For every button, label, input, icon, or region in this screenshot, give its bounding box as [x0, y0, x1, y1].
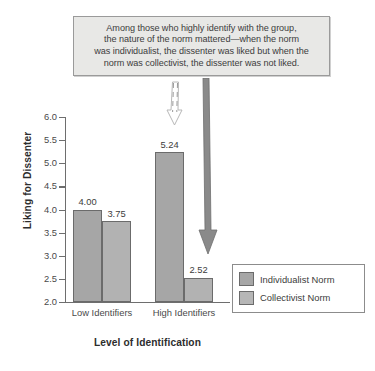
legend-label-collectivist: Collectivist Norm: [260, 292, 330, 303]
y-tick-4.0: [59, 210, 65, 211]
y-tick-6.0: [59, 117, 65, 118]
y-tick-5.0: [59, 163, 65, 164]
x-group-label-low: Low Identifiers: [57, 307, 147, 318]
plot-area: 6.0 5.5 5.0 4.5 4.0 3.5 3.0 2.5 2.0 4.00…: [0, 0, 375, 371]
y-tick-2.0: [59, 302, 65, 303]
chart-figure: Among those who highly identify with the…: [0, 0, 375, 371]
bar-label-high-collectivist: 2.52: [184, 264, 213, 275]
dashed-arrow-icon: [160, 80, 188, 134]
y-tick-5.5: [59, 140, 65, 141]
bar-high-individualist[interactable]: [155, 152, 184, 302]
legend: Individualist Norm Collectivist Norm: [232, 264, 365, 313]
x-axis-line: [65, 302, 230, 303]
legend-label-individualist: Individualist Norm: [260, 274, 335, 285]
y-axis-title: Liking for Dissenter: [22, 116, 33, 246]
legend-swatch-individualist: [239, 272, 254, 286]
bar-low-individualist[interactable]: [73, 210, 102, 303]
x-group-label-high: High Identifiers: [139, 307, 229, 318]
y-tick-3.0: [59, 256, 65, 257]
y-axis-line: [65, 117, 66, 303]
y-tick-label-2.0: 2.0: [27, 296, 57, 307]
y-tick-label-2.5: 2.5: [27, 273, 57, 284]
legend-swatch-collectivist: [239, 291, 254, 305]
y-tick-3.5: [59, 233, 65, 234]
bar-high-collectivist[interactable]: [184, 278, 213, 302]
bar-label-high-individualist: 5.24: [155, 139, 184, 150]
bar-low-collectivist[interactable]: [102, 221, 131, 302]
bar-label-low-individualist: 4.00: [73, 196, 102, 207]
bar-label-low-collectivist: 3.75: [102, 208, 131, 219]
legend-item-individualist[interactable]: Individualist Norm: [239, 272, 358, 286]
solid-arrow-icon: [194, 78, 222, 260]
y-tick-label-3.0: 3.0: [27, 250, 57, 261]
legend-item-collectivist[interactable]: Collectivist Norm: [239, 291, 358, 305]
y-tick-2.5: [59, 279, 65, 280]
x-axis-title: Level of Identification: [65, 337, 230, 348]
y-tick-4.5: [59, 186, 65, 187]
